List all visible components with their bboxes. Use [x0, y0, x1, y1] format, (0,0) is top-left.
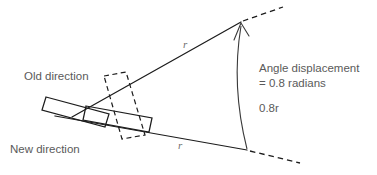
lower-radius-label: r: [178, 139, 183, 151]
old-direction-label: Old direction: [24, 70, 89, 82]
upper-radius-line: [72, 22, 241, 117]
angle-displacement-label-line2: = 0.8 radians: [259, 77, 326, 89]
dashed-object-outline: [104, 72, 145, 139]
new-direction-label: New direction: [10, 143, 80, 155]
ghost-direction-object-rect: [104, 72, 145, 139]
angular-displacement-diagram: Old direction New direction Angle displa…: [0, 0, 377, 175]
lower-radius-dashed-extension: [250, 151, 300, 163]
arc-arrowhead-icon: [234, 23, 249, 40]
upper-radius-label: r: [183, 38, 188, 50]
angle-arc-group: [234, 23, 249, 149]
angle-displacement-label-line1: Angle displacement: [259, 62, 360, 74]
upper-radius-dashed-extension: [243, 7, 283, 21]
arc-length-label: 0.8r: [259, 102, 279, 114]
angle-arc: [237, 26, 247, 149]
diagram-canvas: Old direction New direction Angle displa…: [0, 0, 377, 175]
